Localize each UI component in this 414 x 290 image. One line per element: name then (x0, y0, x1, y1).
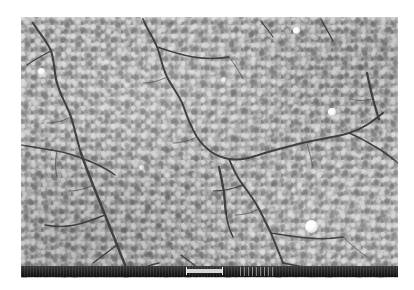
bright-particle-1 (38, 68, 45, 75)
grain-texture-layer-4 (21, 17, 398, 278)
bright-particle-6 (221, 77, 226, 82)
scale-bar (186, 269, 223, 273)
bright-particle-5 (139, 165, 144, 170)
scale-bar-tick-right (222, 267, 223, 275)
sem-micrograph-image (21, 17, 398, 278)
bright-particle-4 (305, 220, 318, 233)
instrument-info-bar (21, 266, 398, 277)
figure-root (0, 0, 414, 290)
instrument-marks (240, 267, 276, 276)
bright-particle-3 (328, 108, 336, 116)
scale-bar-tick-left (186, 267, 187, 275)
bright-particle-2 (293, 27, 300, 34)
